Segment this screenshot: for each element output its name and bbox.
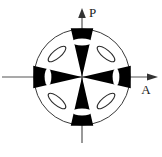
brush-bottom	[71, 77, 94, 126]
ellipse-lower-left	[46, 91, 68, 111]
analyzer-axis-label: A	[141, 82, 151, 97]
band-bottom	[72, 109, 92, 116]
ellipse-upper-left	[46, 44, 68, 64]
brush-right	[82, 66, 131, 89]
ellipse-lower-right	[95, 91, 117, 111]
polarizer-axis-label: P	[89, 5, 96, 20]
interference-figure-diagram: P A	[0, 0, 162, 157]
polarizer-arrowhead	[78, 8, 86, 18]
band-right	[113, 68, 120, 86]
diagram-canvas: P A	[0, 0, 162, 157]
brush-top	[71, 28, 94, 77]
analyzer-arrowhead	[147, 73, 158, 80]
brush-left	[33, 66, 82, 89]
band-left	[45, 68, 52, 86]
ellipse-upper-right	[95, 44, 117, 64]
band-top	[72, 39, 92, 46]
